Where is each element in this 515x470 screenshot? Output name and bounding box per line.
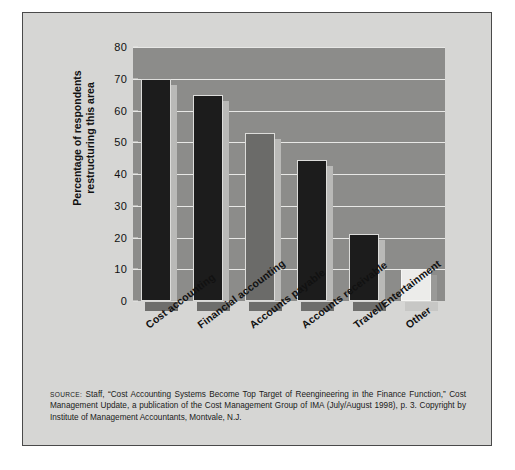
chart-figure: Percentage of respondents restructuring … [22,12,492,446]
y-axis-tickmark [133,47,138,48]
y-axis-tickmark [133,269,138,270]
source-label: Source: [50,391,82,398]
gridline [133,79,445,80]
gridline [133,206,445,207]
y-axis-tickmark [133,142,138,143]
y-axis-tickmark [133,301,138,302]
y-axis-tick-label: 20 [97,232,127,244]
y-axis-title-line-1: Percentage of respondents [71,70,83,205]
y-axis-tickmark [133,205,138,206]
bar-highlight [222,101,229,301]
bar-highlight [326,166,333,301]
y-axis-tick-label: 10 [97,263,127,275]
y-axis-tickmark [133,237,138,238]
bar[interactable] [141,79,171,301]
gridline [133,142,445,143]
bar-highlight [430,275,437,301]
y-axis-tick-labels: 01020304050607080 [93,47,127,301]
bar-highlight [170,85,177,301]
gridline [133,238,445,239]
y-axis-tick-label: 70 [97,73,127,85]
y-axis-tick-label: 0 [97,295,127,307]
y-axis-tick-label: 60 [97,105,127,117]
y-axis-tickmark [133,78,138,79]
gridline [133,111,445,112]
y-axis-tickmark [133,174,138,175]
gridline [133,269,445,270]
y-axis-tick-label: 30 [97,200,127,212]
y-axis-tick-label: 50 [97,136,127,148]
bar[interactable] [193,95,223,301]
y-axis-tick-label: 80 [97,41,127,53]
gridline [133,174,445,175]
bar-highlight [274,139,281,301]
y-axis-tickmark [133,110,138,111]
y-axis-tickmarks [133,47,143,301]
y-axis-tick-label: 40 [97,168,127,180]
source-citation: Source: Staff, “Cost Accounting Systems … [50,389,466,423]
plot-wrapper: Percentage of respondents restructuring … [23,13,492,373]
gridline [133,47,445,48]
plot-area [133,47,445,301]
source-text: Staff, “Cost Accounting Systems Become T… [50,390,466,422]
